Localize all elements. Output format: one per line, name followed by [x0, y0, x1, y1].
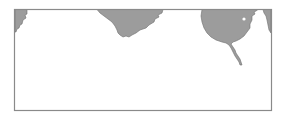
map-container	[0, 0, 283, 120]
map-canvas	[0, 0, 283, 120]
lake-layer	[242, 17, 245, 20]
inland-lake	[242, 17, 245, 20]
